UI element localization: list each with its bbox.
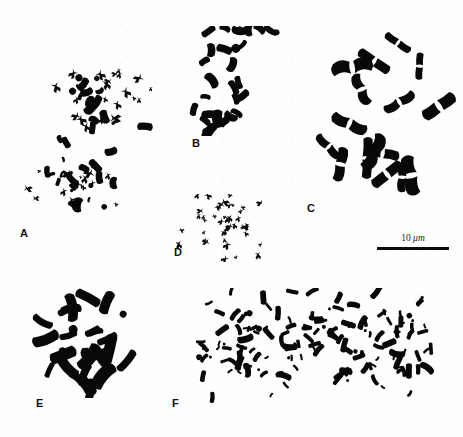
chromosome [207, 43, 216, 57]
chromosome [406, 390, 413, 398]
chromosome [217, 218, 225, 226]
chromosome-spread [176, 194, 262, 262]
chromosome [380, 385, 386, 390]
chromosome [234, 323, 243, 336]
chromosome [215, 345, 220, 351]
chromosome [113, 201, 119, 207]
chromosome [327, 307, 331, 311]
chromosome [37, 169, 42, 173]
chromosome-spread [18, 286, 150, 398]
panel-c [305, 10, 461, 202]
chromosome [329, 111, 369, 138]
chromosome [292, 364, 299, 372]
chromosome [282, 381, 290, 389]
chromosome [93, 75, 100, 82]
scale-bar-value: 10 [401, 233, 411, 243]
chromosome [220, 255, 229, 262]
scale-bar-label: 10 μm [377, 233, 449, 244]
chromosome [235, 215, 242, 223]
chromosome [210, 392, 216, 404]
panel-label-c: C [307, 203, 315, 214]
chromosome-spread [14, 50, 166, 230]
chromosome [265, 303, 273, 312]
chromosome [243, 230, 250, 237]
chromosome [261, 326, 275, 341]
chromosome [44, 166, 51, 179]
chromosome [373, 329, 385, 343]
chromosome [269, 392, 274, 398]
chromosome [219, 26, 232, 34]
chromosome [51, 82, 62, 94]
chromosome [131, 95, 137, 101]
chromosome [118, 309, 127, 318]
chromosome [280, 330, 290, 337]
chromosome [222, 238, 226, 243]
chromosome [405, 328, 415, 340]
chromosome [43, 361, 55, 378]
chromosome [194, 194, 200, 200]
chromosome [275, 370, 293, 381]
chromosome-spread [176, 288, 448, 408]
scale-bar-line [377, 247, 449, 250]
chromosome [214, 323, 230, 337]
panel-label-b: B [192, 138, 200, 149]
chromosome [196, 354, 202, 360]
panel-label-d: D [174, 247, 182, 258]
chromosome [287, 356, 291, 360]
chromosome [264, 355, 270, 359]
chromosome [414, 349, 422, 362]
chromosome [113, 100, 123, 111]
chromosome [423, 323, 427, 329]
chromosome [418, 360, 436, 376]
chromosome [255, 200, 262, 207]
chromosome [87, 180, 96, 189]
chromosome [204, 194, 213, 201]
chromosome [238, 208, 244, 214]
panel-d [176, 194, 262, 262]
chromosome [305, 288, 320, 297]
chromosome [369, 288, 383, 300]
chromosome [98, 109, 111, 125]
chromosome [222, 346, 233, 351]
chromosome [346, 378, 350, 382]
chromosome [95, 87, 106, 96]
panel-label-e: E [36, 398, 44, 409]
chromosome [200, 93, 211, 100]
chromosome [84, 325, 102, 338]
chromosome [189, 102, 199, 117]
chromosome [429, 342, 434, 355]
chromosome [363, 329, 367, 333]
chromosome [215, 43, 233, 56]
chromosome [70, 112, 81, 122]
chromosome [209, 355, 213, 359]
chromosome [201, 230, 206, 235]
chromosome [109, 177, 117, 190]
chromosome [352, 352, 366, 361]
chromosome [178, 227, 185, 233]
chromosome [321, 324, 327, 330]
panel-b [188, 26, 280, 136]
chromosome [248, 346, 256, 354]
panel-e [18, 286, 150, 398]
chromosome [59, 329, 79, 341]
chromosome [217, 340, 221, 346]
chromosome [196, 208, 203, 214]
scale-bar: 10 μm [377, 233, 449, 250]
chromosome [212, 214, 218, 219]
chromosome [24, 185, 33, 193]
chromosome [87, 197, 91, 203]
chromosome [149, 87, 153, 92]
chromosome [116, 68, 121, 74]
chromosome [255, 252, 262, 260]
chromosome [213, 308, 225, 317]
chromosome [225, 56, 239, 74]
chromosome [31, 329, 61, 350]
chromosome-spread [305, 10, 461, 202]
chromosome [290, 354, 293, 361]
chromosome [55, 177, 61, 186]
chromosome [287, 316, 292, 324]
chromosome [222, 342, 226, 346]
chromosome [102, 96, 109, 103]
chromosome [415, 52, 424, 80]
chromosome [59, 172, 63, 178]
